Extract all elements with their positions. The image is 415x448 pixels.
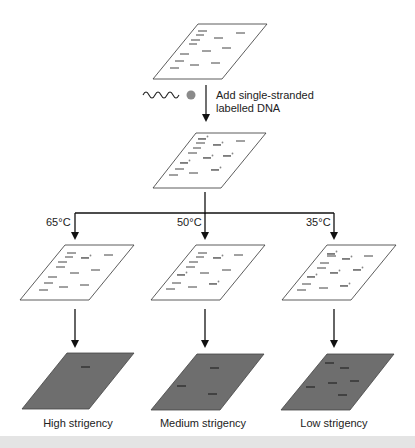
membrane-washed-65	[20, 245, 134, 300]
autorad-medium	[151, 354, 264, 410]
result-label-low: Low strigency	[300, 417, 368, 429]
membrane-washed-50	[151, 245, 265, 300]
branch-connector	[75, 192, 334, 236]
step-label-line1: Add single-stranded	[216, 89, 314, 101]
result-arrows	[75, 309, 334, 344]
temp-label-50: 50°C	[177, 216, 202, 228]
bottom-band	[0, 436, 415, 448]
membrane-with-probe	[153, 133, 266, 188]
probe-icon	[143, 91, 196, 100]
membrane-initial	[153, 24, 267, 79]
membrane-washed-35	[282, 245, 396, 300]
autorad-low	[281, 354, 394, 410]
result-label-medium: Medium strigency	[160, 417, 247, 429]
temp-label-35: 35°C	[306, 216, 331, 228]
hybridization-diagram: Add single-stranded labelled DNA 65°C 50…	[0, 0, 415, 448]
step-label-line2: labelled DNA	[216, 102, 281, 114]
result-label-high: High strigency	[43, 417, 113, 429]
temp-label-65: 65°C	[46, 216, 71, 228]
autorad-high	[22, 353, 134, 409]
